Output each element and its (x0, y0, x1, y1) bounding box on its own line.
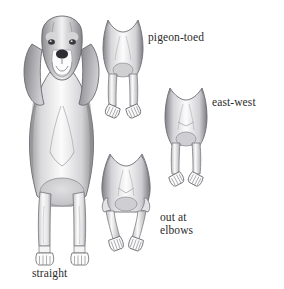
illustration-canvas: pigeon-toed east-west out atelbows strai… (0, 0, 284, 289)
label-pigeon-toed: pigeon-toed (148, 31, 204, 44)
label-straight: straight (32, 267, 67, 280)
figure-pigeon-toed-legs (94, 12, 152, 120)
figure-out-at-elbows-legs (95, 146, 157, 254)
label-out-at-elbows-line1: out at (160, 211, 186, 223)
label-east-west: east-west (212, 96, 256, 109)
label-out-at-elbows: out atelbows (160, 211, 193, 236)
label-out-at-elbows-line2: elbows (160, 224, 193, 236)
figure-east-west-legs (156, 80, 216, 188)
